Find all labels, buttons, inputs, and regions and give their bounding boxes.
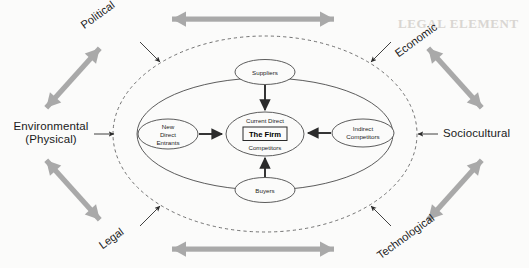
center-label-current-direct: Current Direct (225, 117, 305, 124)
node-label-ic-line1: Indirect (333, 125, 393, 133)
arrow-political-to-boundary (140, 42, 160, 62)
node-label-suppliers: Suppliers (235, 69, 295, 77)
double-arrow-bottom-horizontal (172, 242, 334, 257)
macro-label-sociocultural: Sociocultural (443, 127, 510, 139)
double-arrow-top-horizontal (172, 12, 334, 27)
double-arrow-lower-right-diagonal (423, 155, 488, 225)
node-label-nde-line1: New (138, 123, 198, 131)
double-arrow-lower-left-diagonal (41, 155, 106, 225)
arrow-economic-to-boundary (371, 42, 391, 62)
center-label-competitors: Competitors (225, 144, 305, 151)
macro-label-environmental-line2: (Physical) (8, 133, 94, 145)
double-arrow-upper-left-diagonal (41, 43, 106, 113)
node-label-nde-line2: Direct (138, 131, 198, 139)
macro-label-environmental: Environmental (Physical) (8, 120, 94, 145)
node-label-new-direct-entrants: New Direct Entrants (138, 123, 198, 148)
node-label-indirect-competitors: Indirect Competitors (333, 125, 393, 141)
diagram-canvas: LEGAL ELEMENT (0, 0, 529, 268)
arrow-technological-to-boundary (371, 206, 391, 226)
macro-label-environmental-line1: Environmental (8, 120, 94, 132)
double-arrow-upper-right-diagonal (423, 43, 488, 113)
node-label-buyers: Buyers (235, 187, 295, 195)
arrow-legal-to-boundary (140, 206, 160, 226)
the-firm-label: The Firm (243, 130, 287, 139)
node-label-nde-line3: Entrants (138, 139, 198, 147)
node-label-ic-line2: Competitors (333, 133, 393, 141)
